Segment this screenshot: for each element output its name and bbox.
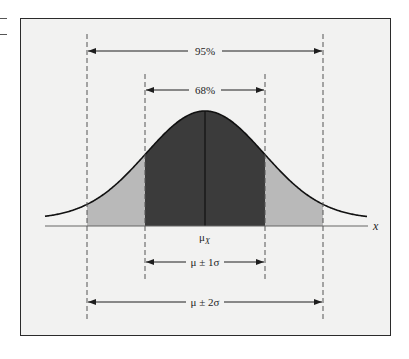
range-2sigma-label: μ ± 2σ [191, 296, 220, 308]
mean-subscript: X [204, 237, 211, 246]
percent-95-label: 95% [195, 45, 215, 57]
percent-68-label: 68% [195, 84, 215, 96]
normal-distribution-diagram: x 95% 68% μX μ ± 1σ μ ± 2σ [0, 0, 409, 359]
range-1sigma-label: μ ± 1σ [191, 256, 220, 268]
x-axis-label: x [372, 219, 379, 233]
mean-label: μX [199, 231, 211, 246]
